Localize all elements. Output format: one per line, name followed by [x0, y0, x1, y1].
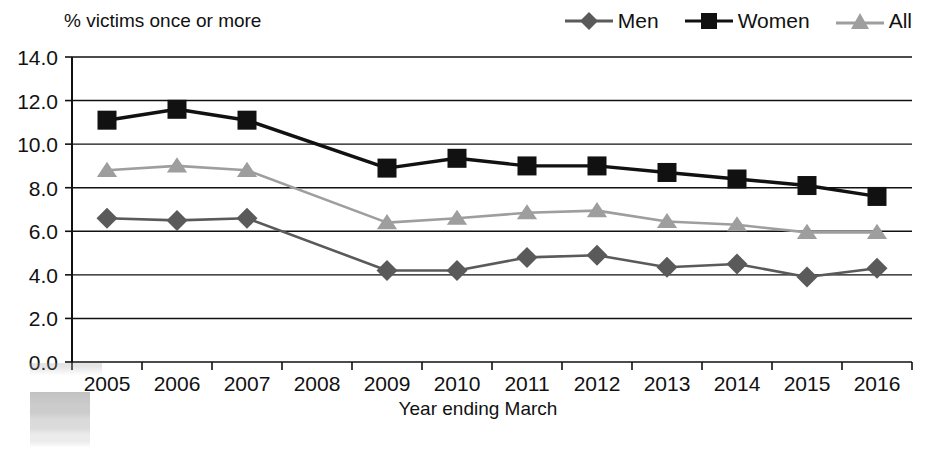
- x-axis-tick-label: 2015: [784, 372, 831, 395]
- x-axis-tick-label: 2006: [154, 372, 201, 395]
- x-axis-title-text: Year ending March: [399, 398, 558, 420]
- data-point-marker: [587, 245, 608, 266]
- x-axis-tick-label: 2005: [84, 372, 131, 395]
- data-point-marker: [167, 210, 188, 231]
- chart-plot-area: 14.012.010.08.06.04.02.00.0 200520062007…: [0, 0, 930, 451]
- y-axis-tick-label: 2.0: [29, 307, 58, 330]
- y-axis-tick-labels: 14.012.010.08.06.04.02.00.0: [17, 46, 58, 374]
- data-point-marker: [658, 163, 677, 182]
- data-point-marker: [518, 156, 537, 175]
- x-axis-tick-label: 2013: [644, 372, 691, 395]
- data-point-marker: [588, 156, 607, 175]
- data-point-marker: [237, 208, 258, 229]
- y-axis-tick-label: 10.0: [17, 133, 58, 156]
- series-lines: [107, 109, 877, 277]
- y-axis-tick-label: 4.0: [29, 264, 58, 287]
- series-line-all: [107, 166, 877, 233]
- data-point-marker: [448, 149, 467, 168]
- x-axis-tick-label: 2010: [434, 372, 481, 395]
- x-axis-tick-label: 2011: [504, 372, 549, 395]
- data-point-marker: [728, 170, 747, 189]
- y-axis-tick-label: 8.0: [29, 177, 58, 200]
- x-axis-tick-label: 2007: [224, 372, 271, 395]
- data-point-marker: [867, 258, 888, 279]
- y-axis-tick-label: 0.0: [29, 351, 58, 374]
- data-point-marker: [168, 100, 187, 119]
- gridlines: [72, 57, 912, 362]
- y-axis-tick-label: 12.0: [17, 90, 58, 113]
- series-line-women: [107, 109, 877, 196]
- data-point-marker: [798, 176, 817, 195]
- data-point-marker: [447, 260, 468, 281]
- x-axis-tick-marks: [72, 362, 912, 370]
- x-axis-tick-label: 2014: [714, 372, 761, 395]
- data-point-marker: [238, 111, 257, 130]
- data-point-marker: [517, 247, 538, 268]
- data-point-marker: [727, 253, 748, 274]
- y-axis-tick-marks: [65, 57, 72, 362]
- y-axis-tick-label: 14.0: [17, 46, 58, 69]
- x-axis-tick-label: 2016: [854, 372, 901, 395]
- data-point-marker: [868, 187, 887, 206]
- x-axis-tick-labels: 2005200620072008200920102011201220132014…: [84, 372, 901, 395]
- data-point-marker: [377, 260, 398, 281]
- data-point-marker: [97, 208, 118, 229]
- y-axis-tick-label: 6.0: [29, 220, 58, 243]
- data-point-marker: [378, 159, 397, 178]
- chart-container: Men Women All % victims once or more 14.…: [0, 0, 930, 451]
- x-axis-title: Year ending March: [0, 398, 930, 420]
- series-markers: [97, 100, 888, 288]
- x-axis-tick-label: 2009: [364, 372, 411, 395]
- data-point-marker: [167, 157, 187, 172]
- data-point-marker: [98, 111, 117, 130]
- data-point-marker: [797, 267, 818, 288]
- x-axis-tick-label: 2012: [574, 372, 621, 395]
- x-axis-tick-label: 2008: [294, 372, 341, 395]
